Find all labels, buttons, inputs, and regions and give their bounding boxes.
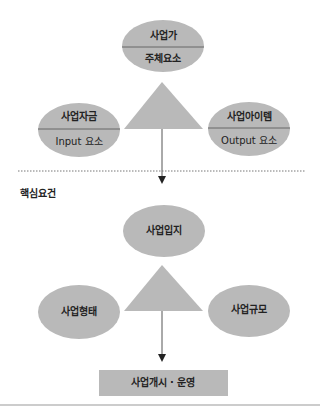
form-label: 사업형태 [61,305,97,317]
scale-label: 사업규모 [231,303,267,315]
subject-title: 사업가 [150,29,178,41]
form-node: 사업형태 [38,285,120,339]
subject-node: 사업가 주체요소 [122,20,204,72]
top-triangle [124,82,203,129]
diagram-canvas: 사업가 주체요소 사업자금 Input 요소 사업아이템 Output 요소 사… [0,0,320,414]
bottom-triangle [124,265,203,311]
location-node: 사업입지 [123,205,205,257]
output-node: 사업아이템 Output 요소 [208,102,290,156]
section-label: 핵심요건 [20,185,56,200]
input-node: 사업자금 Input 요소 [38,103,120,157]
output-title: 사업아이템 [227,110,272,122]
location-label: 사업입지 [146,224,182,236]
result-node: 사업개시 · 운영 [99,370,228,396]
scale-node: 사업규모 [208,285,290,337]
input-title: 사업자금 [61,110,97,122]
subject-ellipse [122,20,204,72]
output-subtitle: Output 요소 [221,135,277,146]
subject-subtitle: 주체요소 [145,52,181,64]
result-label: 사업개시 · 운영 [131,376,196,388]
input-subtitle: Input 요소 [55,136,102,147]
